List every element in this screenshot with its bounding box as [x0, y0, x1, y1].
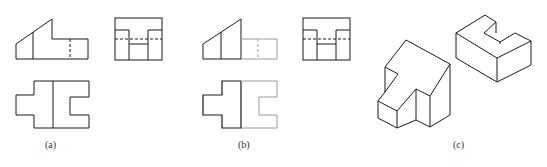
figure-b-top-view — [203, 81, 277, 128]
figure-b-front-view — [203, 19, 277, 59]
drawing-svg — [0, 0, 547, 167]
figure-canvas: (a) (b) (c) — [0, 0, 547, 167]
caption-b: (b) — [238, 139, 250, 150]
caption-a: (a) — [45, 139, 56, 150]
figure-a-top-view — [16, 81, 89, 128]
figure-a-side-view — [115, 18, 162, 60]
caption-c: (c) — [453, 139, 464, 150]
figure-b-side-view — [303, 18, 350, 60]
figure-c-isometric-part-left — [378, 40, 450, 128]
figure-c-isometric-part-right — [456, 15, 531, 82]
figure-a-front-view — [16, 19, 88, 59]
